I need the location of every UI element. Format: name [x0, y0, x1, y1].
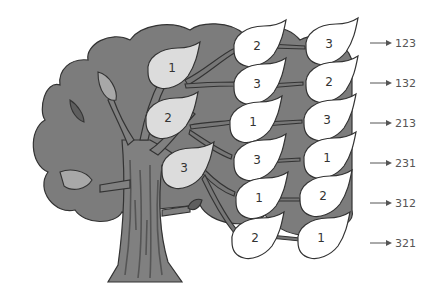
result-row-5: 312	[370, 197, 416, 210]
svg-text:2: 2	[319, 189, 327, 203]
result-row-1: 123	[370, 37, 416, 50]
result-label: 213	[395, 117, 416, 130]
results: 123 132 213 231 312 321	[370, 37, 416, 250]
result-label: 312	[395, 197, 416, 210]
leaf-label: 2	[164, 111, 172, 125]
result-label: 132	[395, 77, 416, 90]
svg-text:1: 1	[317, 231, 325, 245]
arrow-head-icon	[386, 240, 392, 246]
svg-text:2: 2	[253, 39, 261, 53]
result-row-6: 321	[370, 237, 416, 250]
result-row-3: 213	[370, 117, 416, 130]
tree-illustration: 1 2 3 2 3 1 3 1	[0, 0, 431, 299]
permutation-tree-diagram: 1 2 3 2 3 1 3 1	[0, 0, 431, 299]
svg-text:1: 1	[255, 191, 263, 205]
svg-text:1: 1	[249, 115, 257, 129]
result-label: 231	[395, 157, 416, 170]
svg-text:2: 2	[251, 231, 259, 245]
result-label: 321	[395, 237, 416, 250]
svg-text:1: 1	[323, 151, 331, 165]
leaf-label: 3	[180, 161, 188, 175]
svg-text:3: 3	[253, 77, 261, 91]
svg-text:2: 2	[325, 75, 333, 89]
svg-text:3: 3	[323, 113, 331, 127]
arrow-head-icon	[386, 40, 392, 46]
arrow-head-icon	[386, 160, 392, 166]
arrow-head-icon	[386, 80, 392, 86]
result-row-2: 132	[370, 77, 416, 90]
result-label: 123	[395, 37, 416, 50]
arrow-head-icon	[386, 200, 392, 206]
arrow-head-icon	[386, 120, 392, 126]
leaf-label: 1	[168, 61, 176, 75]
svg-text:3: 3	[253, 153, 261, 167]
result-row-4: 231	[370, 157, 416, 170]
svg-text:3: 3	[325, 37, 333, 51]
